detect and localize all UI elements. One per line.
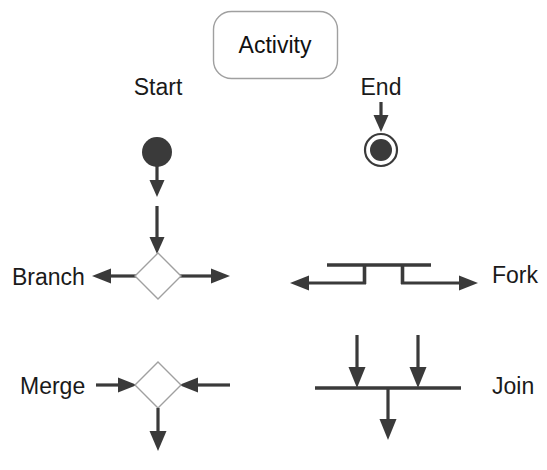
connector-merge-out (150, 408, 167, 451)
branch-label: Branch (12, 264, 85, 290)
fork-label: Fork (492, 262, 539, 288)
activity-node[interactable]: Activity (214, 12, 338, 79)
connector-to-end (374, 102, 389, 132)
merge-node[interactable]: Merge (20, 362, 230, 451)
join-label: Join (492, 373, 534, 399)
start-label: Start (134, 74, 183, 100)
connector-join-out (380, 389, 397, 440)
join-node[interactable]: Join (315, 335, 534, 440)
fork-node[interactable]: Fork (290, 262, 539, 291)
end-label: End (361, 74, 402, 100)
connector-merge-left-in (96, 378, 137, 393)
end-node[interactable]: End (361, 74, 402, 166)
connector-fork-right (401, 276, 478, 291)
start-initial-circle (142, 137, 172, 167)
diagram-canvas: Activity Start End (0, 0, 547, 470)
merge-label: Merge (20, 373, 85, 399)
connector-join-in-1 (349, 335, 366, 388)
activity-label: Activity (239, 32, 312, 58)
connector-branch-right (180, 269, 230, 284)
end-inner-circle (370, 139, 392, 161)
connector-flow-to-branch (150, 206, 165, 254)
connector-join-in-2 (410, 335, 427, 388)
uml-activity-legend: Activity Start End (0, 0, 547, 470)
branch-diamond (135, 253, 181, 299)
merge-diamond (135, 362, 181, 408)
connector-merge-right-in (179, 378, 230, 393)
connector-fork-left (290, 276, 366, 291)
branch-node[interactable]: Branch (12, 253, 230, 299)
connector-branch-left (92, 269, 136, 284)
connector-start-to-flow (150, 163, 165, 197)
start-node[interactable]: Start (134, 74, 183, 254)
